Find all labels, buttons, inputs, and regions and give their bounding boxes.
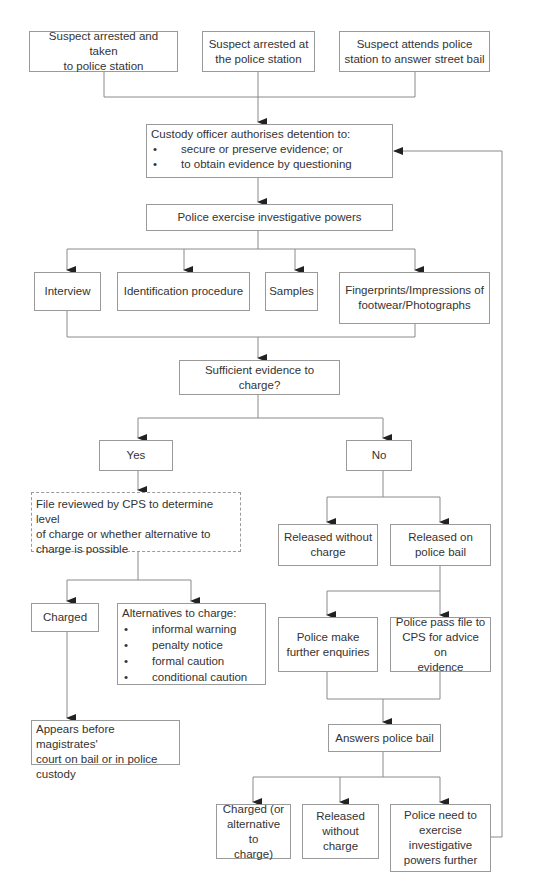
node-charged: Charged (31, 603, 99, 632)
custody-bullet: secure or preserve evidence; or (151, 142, 352, 157)
node-custody-officer: Custody officer authorises detention to:… (146, 124, 393, 178)
node-samples: Samples (265, 272, 318, 311)
node-sufficient-evidence: Sufficient evidence to charge? (179, 360, 340, 395)
node-answers-police-bail: Answers police bail (328, 724, 441, 752)
node-identification: Identification procedure (117, 272, 250, 311)
node-start-arrested-taken: Suspect arrested and taken to police sta… (29, 31, 178, 72)
node-file-reviewed: File reviewed by CPS to determine level … (31, 492, 241, 552)
node-fingerprints: Fingerprints/Impressions of footwear/Pho… (339, 272, 490, 324)
alternative-bullet: penalty notice (122, 637, 247, 653)
node-investigative-powers: Police exercise investigative powers (146, 204, 393, 231)
node-interview: Interview (34, 272, 101, 311)
node-released-without-charge: Released without charge (278, 524, 378, 566)
node-yes: Yes (99, 440, 173, 471)
alternative-bullet: formal caution (122, 653, 247, 669)
node-released-police-bail: Released on police bail (390, 524, 491, 566)
alternative-bullet: informal warning (122, 621, 247, 637)
node-released-without-charge-2: Released without charge (302, 804, 379, 859)
node-pass-file-cps: Police pass file to CPS for advice on ev… (390, 617, 491, 672)
node-police-need-further: Police need to exercise investigative po… (390, 804, 491, 872)
node-appears-magistrates: Appears before magistrates' court on bai… (31, 720, 180, 765)
custody-bullets: secure or preserve evidence; or to obtai… (151, 142, 352, 172)
alternative-bullet: conditional caution (122, 669, 247, 685)
node-further-enquiries: Police make further enquiries (278, 617, 378, 672)
alternatives-bullets: informal warning penalty notice formal c… (122, 621, 247, 685)
custody-bullet: to obtain evidence by questioning (151, 157, 352, 172)
node-alternatives-to-charge: Alternatives to charge: informal warning… (117, 603, 266, 685)
node-no: No (346, 440, 412, 471)
node-charged-or-alternative: Charged (or alternative to charge) (216, 804, 291, 859)
node-start-arrested-at-station: Suspect arrested at the police station (202, 31, 315, 72)
node-start-street-bail: Suspect attends police station to answer… (339, 31, 490, 72)
